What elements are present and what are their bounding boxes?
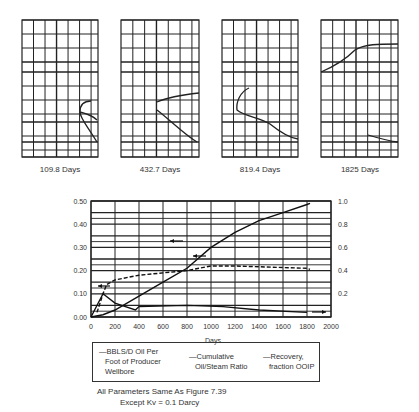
series-line-3	[91, 203, 310, 317]
y-left-tick-label: 0.20	[73, 267, 87, 274]
x-tick-label: 800	[181, 323, 193, 330]
caption-line-2: Except Kv = 0.1 Darcy	[120, 398, 199, 407]
legend-text: Oil/Steam Ratio	[189, 362, 248, 372]
legend-item-recovery: —Recovery, fraction OOIP	[263, 352, 314, 372]
legend-text: fraction OOIP	[263, 362, 314, 372]
mini-chart-1	[22, 20, 98, 157]
legend-text: —Cumulative	[189, 352, 248, 362]
x-tick-label: 1800	[299, 323, 315, 330]
caption-line-1: All Parameters Same As Figure 7.39	[97, 387, 226, 396]
legend-item-osr: —Cumulative Oil/Steam Ratio	[189, 352, 248, 372]
y-right-tick-label: 1.0	[338, 198, 348, 205]
legend: —BBLS/D Oil Per Foot of Producer Wellbor…	[92, 342, 320, 382]
x-tick-label: 0	[89, 323, 93, 330]
legend-item-oil-rate: —BBLS/D Oil Per Foot of Producer Wellbor…	[99, 347, 161, 377]
y-right-tick-label: 0.4	[338, 267, 348, 274]
x-tick-label: 2000	[323, 323, 339, 330]
mini-chart-label-2: 432.7 Days	[115, 165, 205, 174]
y-right-tick-label: 0.2	[338, 290, 348, 297]
y-right-tick-label: 0.6	[338, 244, 348, 251]
x-tick-label: 400	[133, 323, 145, 330]
mini-chart-2	[121, 20, 199, 157]
y-left-tick-label: 0.40	[73, 221, 87, 228]
y-left-tick-label: 0.30	[73, 244, 87, 251]
x-tick-label: 1000	[203, 323, 219, 330]
legend-text: Foot of Producer	[99, 357, 161, 367]
mini-chart-label-1: 109.8 Days	[15, 165, 105, 174]
x-tick-label: 1400	[251, 323, 267, 330]
x-tick-label: 1600	[275, 323, 291, 330]
x-tick-label: 1200	[227, 323, 243, 330]
y-left-tick-label: 0.00	[73, 314, 87, 321]
legend-text: Wellbore	[99, 367, 161, 377]
mini-chart-label-3: 819.4 Days	[215, 165, 305, 174]
mini-chart-4	[321, 20, 398, 157]
main-chart: 02004006008001000120014001600180020000.0…	[73, 198, 347, 346]
mini-chart-label-4: 1825 Days	[315, 165, 405, 174]
mini-chart-3	[222, 20, 298, 157]
y-left-tick-label: 0.50	[73, 198, 87, 205]
x-tick-label: 600	[157, 323, 169, 330]
x-tick-label: 200	[109, 323, 121, 330]
y-left-tick-label: 0.10	[73, 290, 87, 297]
y-right-tick-label: 0.8	[338, 221, 348, 228]
legend-text: —BBLS/D Oil Per	[99, 347, 161, 357]
legend-text: —Recovery,	[263, 352, 314, 362]
